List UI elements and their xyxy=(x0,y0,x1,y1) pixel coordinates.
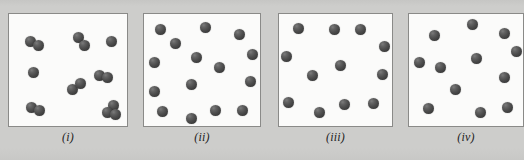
atom-sphere xyxy=(429,30,440,41)
panel-ii-caption: (ii) xyxy=(143,130,261,145)
atom-sphere xyxy=(170,38,181,49)
atom-sphere xyxy=(379,41,390,52)
atom-sphere xyxy=(283,97,294,108)
panel-iii-contents xyxy=(279,14,392,126)
atom-sphere xyxy=(186,79,197,90)
atom-sphere xyxy=(471,53,482,64)
page-top-edge xyxy=(0,0,524,6)
atom-sphere xyxy=(377,69,388,80)
atom-sphere xyxy=(245,76,256,87)
atom-sphere xyxy=(110,109,121,120)
atom-sphere xyxy=(102,72,113,83)
panel-iv xyxy=(408,13,524,127)
atom-sphere xyxy=(499,72,510,83)
atom-sphere xyxy=(414,57,425,68)
atom-sphere xyxy=(467,19,478,30)
atom-sphere xyxy=(106,36,117,47)
atom-sphere xyxy=(149,86,160,97)
atom-sphere xyxy=(450,84,461,95)
atom-sphere xyxy=(191,52,202,63)
atom-sphere xyxy=(34,105,45,116)
atom-sphere xyxy=(28,67,39,78)
atom-sphere xyxy=(247,49,258,60)
atom-sphere xyxy=(149,57,160,68)
atom-sphere xyxy=(237,105,248,116)
atom-sphere xyxy=(75,78,86,89)
atom-sphere xyxy=(293,23,304,34)
atom-sphere xyxy=(329,24,340,35)
atom-sphere xyxy=(281,51,292,62)
atom-sphere xyxy=(339,99,350,110)
panel-iii-caption: (iii) xyxy=(278,130,393,145)
panel-i-contents xyxy=(9,14,127,126)
atom-sphere xyxy=(186,113,197,124)
panel-ii-contents xyxy=(144,14,260,126)
atom-sphere xyxy=(335,60,346,71)
panel-iv-caption: (iv) xyxy=(408,130,524,145)
atom-sphere xyxy=(157,106,168,117)
panel-iv-contents xyxy=(409,14,523,126)
panel-iii xyxy=(278,13,393,127)
panel-ii xyxy=(143,13,261,127)
atom-sphere xyxy=(435,62,446,73)
panel-i-caption: (i) xyxy=(8,130,128,145)
atom-sphere xyxy=(499,28,510,39)
atom-sphere xyxy=(355,24,366,35)
panel-i xyxy=(8,13,128,127)
atom-sphere xyxy=(234,29,245,40)
atom-sphere xyxy=(214,62,225,73)
page-bottom-edge xyxy=(0,148,524,160)
atom-sphere xyxy=(423,103,434,114)
atom-sphere xyxy=(79,40,90,51)
molecular-comparison-figure: (i) (ii) (iii) (iv) xyxy=(0,0,524,160)
atom-sphere xyxy=(33,40,44,51)
atom-sphere xyxy=(368,98,379,109)
atom-sphere xyxy=(502,102,513,113)
atom-sphere xyxy=(307,70,318,81)
atom-sphere xyxy=(511,46,522,57)
atom-sphere xyxy=(475,107,486,118)
atom-sphere xyxy=(200,22,211,33)
atom-sphere xyxy=(155,24,166,35)
atom-sphere xyxy=(314,107,325,118)
atom-sphere xyxy=(210,105,221,116)
